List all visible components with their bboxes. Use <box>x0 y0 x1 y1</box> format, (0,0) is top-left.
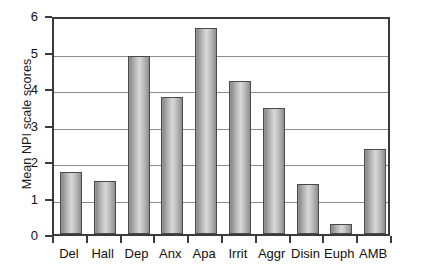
bar <box>297 184 319 234</box>
y-axis-tick-label: 0 <box>0 228 38 244</box>
bar-series <box>54 19 388 234</box>
x-axis-tick-mark <box>120 236 122 243</box>
x-axis-tick-label: Dep <box>120 246 154 262</box>
y-axis-tick: 0 <box>0 228 52 244</box>
y-axis-tick-mark <box>45 89 52 91</box>
y-axis-tick: 3 <box>0 119 52 135</box>
x-axis-tick-mark <box>322 236 324 243</box>
bar <box>60 172 82 234</box>
bar <box>195 28 217 234</box>
bar <box>94 181 116 234</box>
y-axis-tick-label: 3 <box>0 119 38 135</box>
x-axis-tick-mark <box>52 236 54 243</box>
bar <box>229 81 251 234</box>
bar <box>330 224 352 234</box>
y-axis-tick-mark <box>45 126 52 128</box>
x-axis-tick-label: Hall <box>86 246 120 262</box>
y-axis-tick-label: 4 <box>0 82 38 98</box>
y-axis-tick-mark <box>45 199 52 201</box>
bar <box>263 108 285 234</box>
y-axis-tick-mark <box>45 53 52 55</box>
x-axis-tick-label: Anx <box>153 246 187 262</box>
x-axis-tick-label: Aggr <box>255 246 289 262</box>
plot-area <box>52 17 390 236</box>
y-axis-tick-label: 5 <box>0 46 38 62</box>
x-axis-tick-mark <box>255 236 257 243</box>
x-axis-tick-label: Apa <box>187 246 221 262</box>
y-axis-tick: 6 <box>0 9 52 25</box>
y-axis-tick-mark <box>45 235 52 237</box>
x-axis-tick-label: Disin <box>289 246 323 262</box>
y-axis-tick-label: 6 <box>0 9 38 25</box>
y-axis-tick-label: 2 <box>0 155 38 171</box>
y-axis-tick-mark <box>45 16 52 18</box>
y-axis-tick-mark <box>45 162 52 164</box>
y-axis-tick: 1 <box>0 192 52 208</box>
x-axis-tick-mark <box>289 236 291 243</box>
x-axis-tick-mark <box>356 236 358 243</box>
y-axis-tick: 2 <box>0 155 52 171</box>
x-axis-tick-label: AMB <box>356 246 390 262</box>
y-axis-tick: 4 <box>0 82 52 98</box>
bar <box>364 149 386 234</box>
x-axis-tick-mark <box>86 236 88 243</box>
y-axis-tick: 5 <box>0 46 52 62</box>
y-axis-tick-label: 1 <box>0 192 38 208</box>
x-axis-tick-mark <box>187 236 189 243</box>
x-axis-tick-label: Del <box>52 246 86 262</box>
x-axis-tick-label: Euph <box>322 246 356 262</box>
bar-chart: Mean NPI scale scores 0123456 DelHallDep… <box>0 0 422 274</box>
x-axis-tick-label: Irrit <box>221 246 255 262</box>
x-axis-tick-mark <box>153 236 155 243</box>
bar <box>161 97 183 234</box>
x-axis-tick-mark <box>221 236 223 243</box>
bar <box>128 56 150 234</box>
x-axis-tick-mark <box>390 236 392 243</box>
